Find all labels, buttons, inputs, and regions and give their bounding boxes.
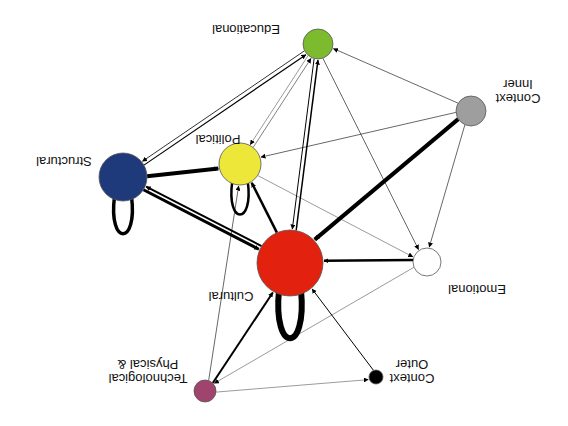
edge-structural-to-cultural xyxy=(143,190,258,249)
edge-layer xyxy=(143,49,465,393)
edge-outer_context-to-cultural xyxy=(312,289,373,370)
node-educational xyxy=(303,29,333,59)
edge-physical_tech-to-cultural xyxy=(213,292,273,383)
node-physical_tech xyxy=(194,380,216,402)
edge-inner_context-to-educational xyxy=(333,49,458,104)
edge-emotional-to-cultural xyxy=(324,260,413,261)
node-cultural xyxy=(257,230,323,296)
node-label-physical_tech: TechnologicalPhysical & xyxy=(109,357,188,386)
edge-cultural-to-educational xyxy=(296,60,318,230)
node-label-political: Political xyxy=(195,132,240,147)
edge-inner_context-to-emotional xyxy=(429,125,465,247)
self-loop-structural xyxy=(114,197,133,233)
node-inner_context xyxy=(456,96,486,126)
edge-structural-to-educational xyxy=(144,55,306,165)
node-label-cultural: Cultural xyxy=(208,289,253,304)
self-loop-political xyxy=(231,182,248,215)
node-label-outer_context: ContextOuter xyxy=(389,357,434,386)
node-structural xyxy=(99,153,147,201)
edge-inner_context-to-political xyxy=(261,112,456,157)
edge-physical_tech-to-outer_context xyxy=(216,380,368,392)
node-emotional xyxy=(413,248,441,276)
node-political xyxy=(219,143,261,185)
node-label-structural: Structural xyxy=(36,154,92,169)
edge-cultural-to-political xyxy=(252,183,277,233)
edge-educational-to-political xyxy=(250,55,308,144)
node-label-educational: Educational xyxy=(212,22,280,37)
node-layer xyxy=(99,29,486,402)
edge-structural-to-political xyxy=(147,168,218,176)
node-label-emotional: Emotional xyxy=(448,282,506,297)
edge-political-to-educational xyxy=(253,59,311,148)
edge-cultural-to-structural xyxy=(146,187,261,246)
self-loop-cultural xyxy=(278,291,302,338)
node-label-inner_context: ContextInner xyxy=(495,77,540,106)
label-layer: EducationalContextInnerStructuralPolitic… xyxy=(36,22,540,386)
node-outer_context xyxy=(369,370,383,384)
network-diagram: EducationalContextInnerStructuralPolitic… xyxy=(0,0,568,426)
